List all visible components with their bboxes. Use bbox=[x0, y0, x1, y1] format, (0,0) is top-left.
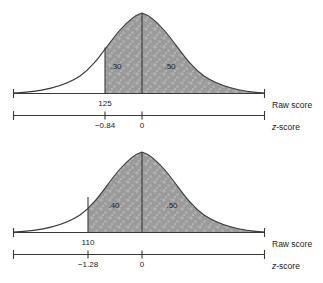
raw-tick-label-bottom: 110 bbox=[82, 238, 95, 247]
z-tick-label-center-top: 0 bbox=[140, 121, 145, 130]
z-axis-name-bottom: z-score bbox=[271, 261, 300, 271]
raw-tick-label-top: 125 bbox=[98, 99, 112, 108]
z-axis-name-top: z-score bbox=[271, 122, 300, 132]
normal-distribution-figure: .30 .50 125 Raw score −0.84 0 z-score bbox=[0, 0, 323, 283]
z-tick-label-cut-top: −0.84 bbox=[95, 121, 116, 130]
z-axis-name-bottom-suffix: -score bbox=[276, 261, 300, 271]
area-label-bottom-right: .50 bbox=[166, 201, 178, 210]
z-tick-label-cut-bottom: −1.28 bbox=[78, 260, 99, 269]
area-label-top-right: .50 bbox=[164, 62, 176, 71]
raw-axis-name-top: Raw score bbox=[272, 100, 312, 110]
area-label-top-left: .30 bbox=[110, 62, 122, 71]
area-label-bottom-left: .40 bbox=[108, 201, 120, 210]
z-axis-name-top-suffix: -score bbox=[276, 122, 300, 132]
z-tick-label-center-bottom: 0 bbox=[140, 260, 145, 269]
raw-axis-name-bottom: Raw score bbox=[272, 239, 312, 249]
